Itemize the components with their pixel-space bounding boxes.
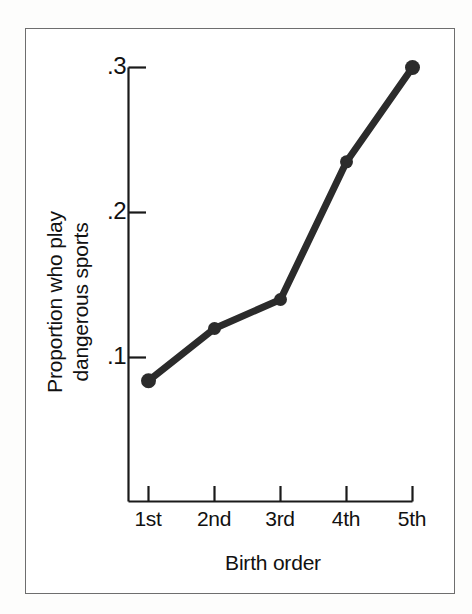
data-point-5th xyxy=(405,60,420,75)
data-point-2nd xyxy=(208,322,221,335)
data-markers xyxy=(141,60,420,388)
data-series-group xyxy=(141,60,420,388)
x-tick-label-1st: 1st xyxy=(113,507,183,531)
x-tick-label-4th: 4th xyxy=(311,507,381,531)
x-tick-label-2nd: 2nd xyxy=(179,507,249,531)
figure-container: .3 .2 .1 1st 2nd 3rd 4th 5th Proportion … xyxy=(0,0,472,614)
x-tick-label-5th: 5th xyxy=(377,507,447,531)
y-axis-title: Proportion who play dangerous sports xyxy=(42,152,94,452)
data-point-1st xyxy=(141,373,156,388)
x-axis-title: Birth order xyxy=(128,551,418,575)
x-tick-label-3rd: 3rd xyxy=(245,507,315,531)
data-point-4th xyxy=(340,155,353,168)
y-tick-label-0: .3 xyxy=(86,52,126,80)
data-point-3rd xyxy=(274,293,287,306)
data-line xyxy=(149,68,413,381)
